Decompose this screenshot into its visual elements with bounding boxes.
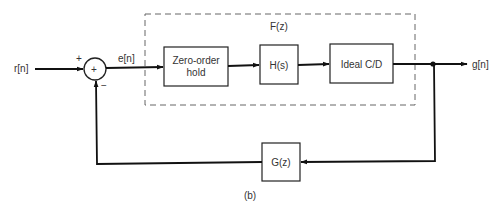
hs-label: H(s) [270,60,289,71]
feedback-to-sum-arrow [96,81,262,164]
zero-order-hold-line1: Zero-order [172,55,220,66]
plus-sign: + [76,53,82,64]
input-label: r[n] [14,63,29,74]
output-label: g[n] [472,59,489,70]
zero-order-hold-block: Zero-order hold [164,47,228,86]
gz-label: G(z) [271,157,290,168]
gz-block: G(z) [262,143,300,181]
figure-caption: (b) [244,190,256,201]
zoh-to-hs-arrow [228,65,259,66]
fz-group-label: F(z) [270,21,288,32]
minus-sign: − [101,80,107,91]
ideal-cd-label: Ideal C/D [341,59,383,70]
error-arrow [106,67,163,68]
block-diagram: F(z) r[n] + + − e[n] Zero-order hold H(s… [0,0,503,207]
hs-to-cd-arrow [298,64,329,65]
hs-block: H(s) [260,45,298,84]
error-label: e[n] [118,53,135,64]
summing-junction-symbol: + [91,64,97,75]
ideal-cd-block: Ideal C/D [330,44,393,83]
zero-order-hold-line2: hold [187,67,206,78]
